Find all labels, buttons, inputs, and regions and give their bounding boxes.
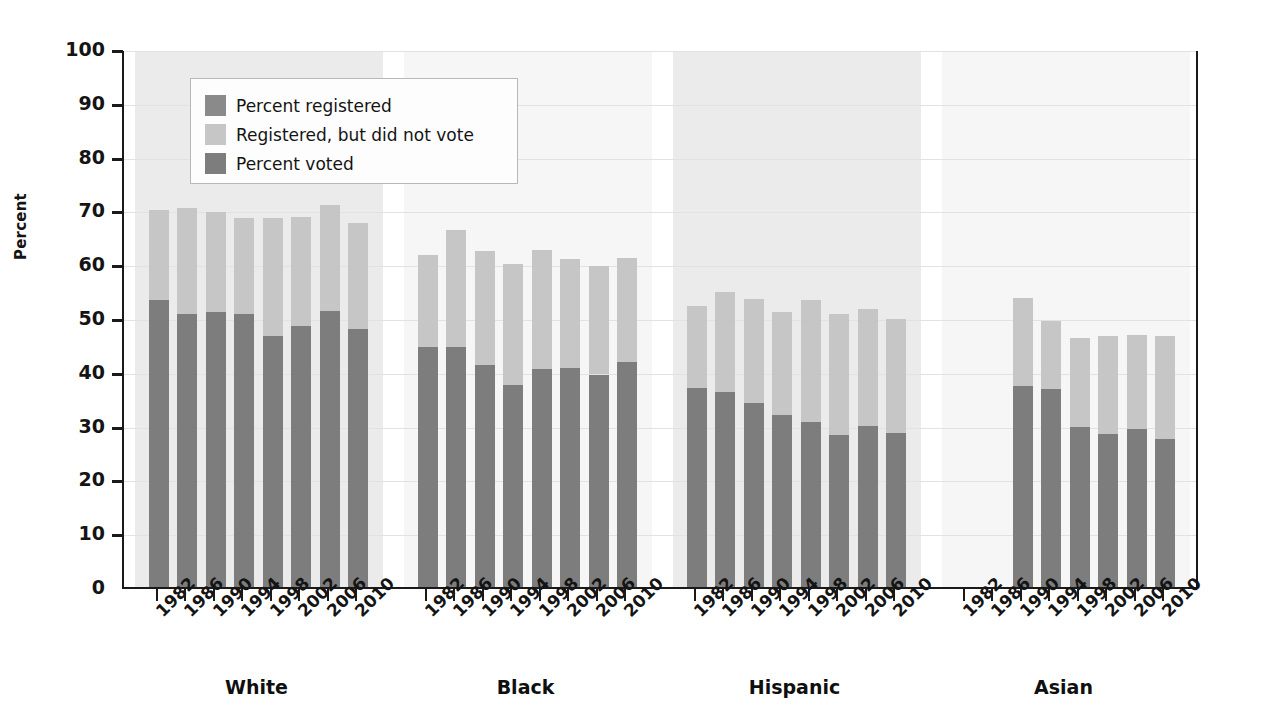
- bar-hispanic-2002: [829, 314, 849, 587]
- bar-segment-registered-not-voted: [1127, 335, 1147, 429]
- bar-black-1998: [532, 250, 552, 587]
- bar-hispanic-2010: [886, 319, 906, 587]
- gridline: [124, 535, 1196, 536]
- y-tick-label: 70: [45, 201, 105, 220]
- bar-segment-registered-not-voted: [320, 205, 340, 311]
- bar-white-1998: [263, 218, 283, 587]
- bar-segment-percent-voted: [177, 314, 197, 587]
- y-tick-label: 20: [45, 470, 105, 489]
- bar-segment-registered-not-voted: [291, 217, 311, 326]
- bar-segment-registered-not-voted: [886, 319, 906, 433]
- bar-segment-percent-voted: [503, 385, 523, 587]
- bar-segment-registered-not-voted: [503, 264, 523, 386]
- bar-segment-percent-voted: [418, 347, 438, 587]
- bar-segment-registered-not-voted: [263, 218, 283, 336]
- bar-white-2002: [291, 217, 311, 587]
- bar-segment-percent-voted: [829, 435, 849, 587]
- bar-segment-registered-not-voted: [858, 309, 878, 426]
- bar-segment-percent-voted: [1041, 389, 1061, 587]
- bar-segment-registered-not-voted: [589, 266, 609, 374]
- bar-segment-percent-voted: [475, 365, 495, 587]
- bar-segment-registered-not-voted: [687, 306, 707, 388]
- bar-hispanic-1994: [772, 312, 792, 587]
- bar-segment-percent-voted: [687, 388, 707, 587]
- bar-segment-percent-voted: [886, 433, 906, 587]
- bar-segment-registered-not-voted: [617, 258, 637, 362]
- bar-hispanic-1982: [687, 306, 707, 587]
- bar-segment-percent-voted: [263, 336, 283, 587]
- bar-segment-percent-voted: [1070, 427, 1090, 587]
- bar-segment-percent-voted: [772, 415, 792, 587]
- bar-segment-registered-not-voted: [234, 218, 254, 313]
- bar-segment-percent-voted: [234, 314, 254, 587]
- y-tick-label: 10: [45, 524, 105, 543]
- bar-white-1994: [234, 218, 254, 587]
- bar-segment-registered-not-voted: [532, 250, 552, 369]
- bar-segment-percent-voted: [206, 312, 226, 587]
- bar-segment-percent-voted: [617, 362, 637, 587]
- bar-asian-1990: [1013, 298, 1033, 587]
- legend-label-percent-registered: Percent registered: [236, 96, 392, 116]
- bar-segment-registered-not-voted: [1070, 338, 1090, 427]
- bar-segment-percent-voted: [348, 329, 368, 587]
- legend-swatch-percent-voted: [205, 153, 226, 174]
- bar-segment-percent-voted: [858, 426, 878, 587]
- bar-black-2006: [589, 266, 609, 587]
- bar-segment-registered-not-voted: [772, 312, 792, 416]
- bar-segment-percent-voted: [291, 326, 311, 587]
- bar-segment-registered-not-voted: [829, 314, 849, 435]
- bar-segment-percent-voted: [801, 422, 821, 587]
- gridline: [124, 212, 1196, 213]
- bar-segment-registered-not-voted: [206, 212, 226, 312]
- group-background-band: [942, 51, 1190, 587]
- bar-segment-percent-voted: [446, 347, 466, 587]
- y-tick-label: 100: [45, 40, 105, 59]
- bar-segment-percent-voted: [1127, 429, 1147, 587]
- bar-segment-percent-voted: [149, 300, 169, 587]
- bar-segment-registered-not-voted: [348, 223, 368, 329]
- y-tick-label: 90: [45, 94, 105, 113]
- bar-hispanic-2006: [858, 309, 878, 587]
- bar-segment-percent-voted: [744, 403, 764, 587]
- gridline: [124, 481, 1196, 482]
- bar-segment-percent-voted: [1155, 439, 1175, 587]
- bar-white-1982: [149, 210, 169, 587]
- legend-swatch-percent-registered: [205, 95, 226, 116]
- legend-item-percent-voted: Percent voted: [205, 149, 517, 178]
- bar-segment-registered-not-voted: [446, 230, 466, 347]
- bar-segment-registered-not-voted: [715, 292, 735, 393]
- bar-segment-registered-not-voted: [1098, 336, 1118, 434]
- y-tick-label: 60: [45, 255, 105, 274]
- bar-segment-percent-voted: [1098, 434, 1118, 587]
- bar-segment-registered-not-voted: [560, 259, 580, 368]
- group-label-black: Black: [391, 676, 660, 698]
- bar-black-1986: [446, 230, 466, 587]
- bar-segment-percent-voted: [715, 392, 735, 587]
- bar-segment-percent-voted: [560, 368, 580, 588]
- bar-asian-1998: [1070, 338, 1090, 587]
- bar-segment-percent-voted: [589, 375, 609, 588]
- y-tick-label: 80: [45, 148, 105, 167]
- bar-segment-registered-not-voted: [801, 300, 821, 422]
- bar-segment-registered-not-voted: [177, 208, 197, 314]
- legend-label-percent-voted: Percent voted: [236, 154, 354, 174]
- bar-segment-registered-not-voted: [1041, 321, 1061, 389]
- group-label-white: White: [122, 676, 391, 698]
- bar-white-1986: [177, 208, 197, 587]
- bar-black-1990: [475, 251, 495, 587]
- bar-black-1982: [418, 255, 438, 587]
- legend: Percent registered Registered, but did n…: [190, 78, 518, 184]
- gridline: [124, 320, 1196, 321]
- bar-segment-registered-not-voted: [1155, 336, 1175, 438]
- bar-segment-percent-voted: [532, 369, 552, 587]
- y-tick-label: 30: [45, 417, 105, 436]
- y-axis: 1009080706050403020100: [0, 0, 122, 723]
- bar-black-2002: [560, 259, 580, 587]
- bar-segment-registered-not-voted: [475, 251, 495, 365]
- bar-hispanic-1986: [715, 292, 735, 587]
- gridline: [124, 374, 1196, 375]
- gridline: [124, 51, 1196, 52]
- bar-hispanic-1990: [744, 299, 764, 587]
- bar-asian-2006: [1127, 335, 1147, 587]
- y-tick-label: 0: [45, 578, 105, 597]
